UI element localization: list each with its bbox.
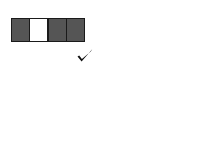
panel-bottom-right: x — [101, 71, 202, 142]
grid-cell-r0c0 — [11, 18, 30, 42]
panel-bottom-left — [0, 71, 101, 142]
grid-cell-r0c3 — [66, 18, 85, 42]
verdict-check-icon-top-left — [76, 48, 94, 64]
polyomino-figure: x x — [0, 0, 202, 142]
shape-four-in-a-row-strip — [11, 18, 85, 42]
grid-cell-r0c1 — [29, 18, 48, 42]
panel-top-right: x — [101, 0, 202, 71]
grid-cell-r0c2 — [48, 18, 67, 42]
panel-top-left — [0, 0, 101, 71]
